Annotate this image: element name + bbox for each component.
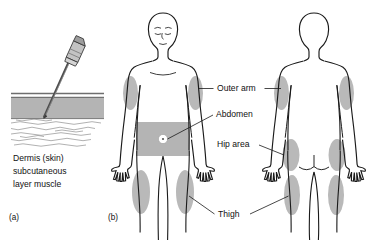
front-head-outline — [148, 13, 177, 61]
panel-b-label: (b) — [108, 213, 118, 222]
front-thigh-left-shade — [132, 170, 150, 214]
front-thigh-right-shade — [176, 170, 194, 214]
label-hip-area: Hip area — [217, 139, 250, 149]
label-outer-arm: Outer arm — [217, 83, 256, 93]
label-thigh: Thigh — [218, 209, 240, 219]
back-outer-arm-right-shade — [339, 76, 354, 110]
panel-a-group: Dermis (skin) subcutaneous layer muscle … — [9, 36, 104, 223]
panel-a-label: (a) — [9, 213, 19, 222]
back-thigh-right-shade — [328, 175, 344, 215]
front-chest-lines — [150, 73, 176, 76]
gluteal-fold — [299, 167, 329, 170]
needle-hub — [65, 36, 85, 67]
panel-a-caption-line-1: Dermis (skin) — [13, 153, 64, 163]
back-body-group — [263, 13, 366, 240]
navel-center-dot — [162, 138, 164, 140]
label-abdomen: Abdomen — [216, 109, 253, 119]
figure-canvas: Dermis (skin) subcutaneous layer muscle … — [0, 0, 391, 240]
front-outer-arm-left-shade — [123, 76, 138, 110]
front-outer-arm-right-shade — [188, 76, 203, 110]
back-outer-arm-left-shade — [274, 76, 289, 110]
subcutaneous-layer — [11, 98, 104, 119]
front-face-features — [154, 27, 171, 44]
panel-a-caption-line-3: layer muscle — [13, 179, 61, 189]
back-head-outline — [299, 13, 328, 61]
muscle-layer — [11, 119, 101, 146]
back-thigh-left-shade — [284, 175, 300, 215]
panel-a-caption-line-2: subcutaneous — [13, 166, 67, 176]
front-body-group: (b) — [108, 13, 214, 240]
thigh-leader-left — [189, 196, 215, 214]
injection-sites-figure: Dermis (skin) subcutaneous layer muscle … — [0, 0, 391, 240]
thigh-leader-right — [250, 196, 289, 214]
